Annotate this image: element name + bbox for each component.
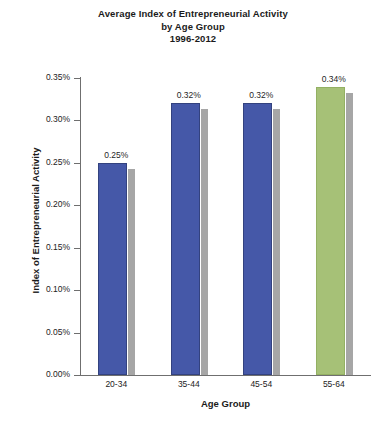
chart-title: Average Index of Entrepreneurial Activit… [0, 8, 386, 46]
bar-55-64[interactable] [316, 87, 345, 376]
y-axis-tick [74, 375, 80, 376]
y-axis-tick-label: 0.35% [10, 73, 70, 82]
x-axis-tick-label: 45-54 [231, 379, 291, 390]
bar-shadow [345, 93, 353, 376]
plot-area: 0.25%0.32%0.32%0.34% [80, 78, 370, 375]
x-axis-tick-label: 55-64 [304, 379, 364, 390]
chart-title-line-2: by Age Group [0, 21, 386, 34]
bar-value-label: 0.32% [233, 90, 289, 100]
chart-title-line-3: 1996-2012 [0, 33, 386, 46]
y-axis-title: Index of Entrepreneurial Activity [30, 106, 41, 336]
bar-value-label: 0.32% [161, 90, 217, 100]
bar-shadow [200, 109, 208, 375]
bar-20-34[interactable] [98, 163, 127, 375]
bar-shadow [127, 169, 135, 375]
bar-shadow [272, 109, 280, 375]
bar-35-44[interactable] [171, 103, 200, 375]
bar-group[interactable] [243, 103, 279, 375]
bar-value-label: 0.25% [88, 150, 144, 160]
y-axis-tick-label: 0.00% [10, 370, 70, 379]
bar-group[interactable] [171, 103, 207, 375]
bar-chart: Average Index of Entrepreneurial Activit… [0, 0, 386, 432]
x-axis-title: Age Group [80, 398, 371, 409]
bar-group[interactable] [316, 87, 352, 376]
chart-title-line-1: Average Index of Entrepreneurial Activit… [0, 8, 386, 21]
x-axis-line [80, 375, 371, 376]
bar-value-label: 0.34% [306, 74, 362, 84]
x-axis-tick-label: 20-34 [86, 379, 146, 390]
x-axis-tick-label: 35-44 [159, 379, 219, 390]
bar-45-54[interactable] [243, 103, 272, 375]
bar-group[interactable] [98, 163, 134, 375]
